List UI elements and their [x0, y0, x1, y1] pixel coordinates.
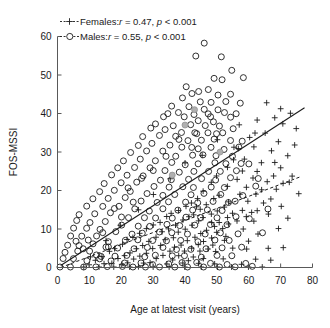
y-tick-label: 50: [40, 70, 52, 81]
x-tick-label: 70: [275, 275, 287, 286]
y-tick-label: 30: [40, 147, 52, 158]
data-point-highlight: [169, 172, 175, 178]
legend-label-males: Males:r = 0.55, p < 0.001: [80, 31, 186, 42]
legend-males-p-value: < 0.001: [151, 31, 186, 42]
data-point-highlight: [217, 149, 223, 155]
y-tick-label: 20: [40, 185, 52, 196]
y-tick-label: 60: [40, 31, 52, 42]
x-tick-label: 50: [211, 275, 223, 286]
y-tick-label: 10: [40, 224, 52, 235]
legend-females-r-value: = 0.47,: [122, 16, 157, 27]
x-tick-label: 20: [116, 275, 128, 286]
legend-females-p-value: < 0.001: [162, 16, 197, 27]
scatter-plot-figure: 0102030405060 01020304050607080 FOS-MSSI…: [0, 0, 330, 328]
x-tick-label: 30: [148, 275, 160, 286]
x-tick-label: 40: [179, 275, 191, 286]
legend-label-females: Females:r = 0.47, p < 0.001: [80, 16, 197, 27]
y-tick-label: 0: [46, 262, 52, 273]
y-tick-label: 40: [40, 108, 52, 119]
legend-females-name: Females:: [80, 16, 119, 27]
figure-canvas: 0102030405060 01020304050607080 FOS-MSSI…: [0, 0, 330, 328]
x-tick-label: 10: [84, 275, 96, 286]
x-axis-title: Age at latest visit (years): [130, 304, 239, 315]
legend-males-name: Males:: [80, 31, 108, 42]
y-axis-title: FOS-MSSI: [8, 128, 19, 176]
x-tick-label: 0: [55, 275, 61, 286]
data-point-highlight: [182, 122, 188, 128]
legend-males-r-value: = 0.55,: [111, 31, 146, 42]
x-tick-label: 60: [243, 275, 255, 286]
x-tick-label: 80: [307, 275, 319, 286]
data-point-highlight: [192, 107, 198, 113]
legend-entry-females: Females:r = 0.47, p < 0.001: [60, 16, 197, 27]
